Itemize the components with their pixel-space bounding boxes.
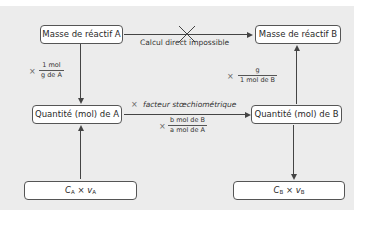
arrow-direct-head (247, 32, 253, 38)
v-sub: B (301, 189, 305, 195)
fraction-g-per-mol-b: g 1 mol de B (238, 66, 277, 85)
frac-num: b mol de B (168, 116, 207, 126)
times-symbol: × (227, 72, 234, 81)
v-sub: A (92, 189, 96, 195)
frac-num: 1 mol (39, 61, 64, 71)
box-mass-a: Masse de réactif A (40, 25, 123, 44)
frac-den: g de A (39, 71, 64, 80)
arrow-qty-a-to-b (124, 114, 246, 115)
arrow-qty-to-mass-b (296, 50, 297, 104)
times-op: × (283, 185, 296, 195)
fraction-b-over-a: b mol de B a mol de A (168, 116, 207, 135)
box-conc-a: CA × vA (24, 181, 137, 200)
arrow-down-head (291, 174, 297, 180)
box-qty-b: Quantité (mol) de B (251, 105, 342, 124)
arrow-up-head (78, 125, 84, 131)
direct-impossible-label: Calcul direct impossible (140, 38, 229, 47)
frac-den: 1 mol de B (238, 76, 277, 85)
times-symbol: × (159, 122, 166, 131)
stoich-factor-label: facteur stœchiométrique (143, 100, 236, 109)
frac-num: g (238, 66, 277, 76)
arrow-down-head (78, 98, 84, 104)
times-symbol: × (29, 67, 36, 76)
arrow-conc-to-qty-a (80, 130, 81, 179)
fraction-mol-per-g-a: 1 mol g de A (39, 61, 64, 80)
times-op: × (75, 185, 88, 195)
arrow-right-head (245, 112, 251, 118)
box-mass-b: Masse de réactif B (255, 25, 341, 44)
arrow-up-head (294, 45, 300, 51)
arrow-mass-to-qty-a (80, 44, 81, 99)
arrow-qty-to-conc-b (293, 125, 294, 175)
frac-den: a mol de A (168, 126, 207, 135)
times-symbol: × (131, 100, 138, 109)
box-conc-b: CB × vB (233, 181, 345, 200)
box-qty-a: Quantité (mol) de A (32, 105, 122, 124)
